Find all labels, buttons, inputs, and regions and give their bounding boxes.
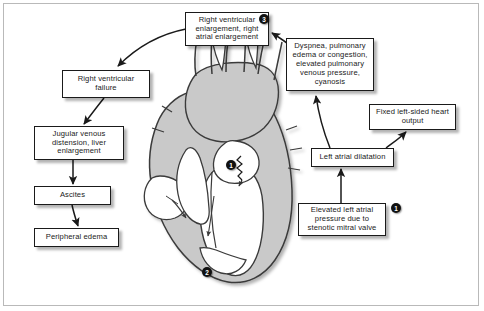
- arrow-rv-enlargement-to-rv-failure: [118, 29, 186, 66]
- jugular-venous-distension-box[interactable]: Jugular venous distension, liver enlarge…: [34, 126, 124, 160]
- dyspnea-pulmonary-edema-box[interactable]: Dyspnea, pulmonary edema or congestion, …: [286, 38, 374, 91]
- left-atrial-dilatation-text: Left atrial dilatation: [320, 153, 386, 162]
- dyspnea-pulmonary-edema-text: Dyspnea, pulmonary edema or congestion, …: [290, 42, 370, 87]
- fixed-left-sided-heart-output-box[interactable]: Fixed left-sided heart output: [369, 104, 456, 130]
- fixed-left-sided-heart-output-text: Fixed left-sided heart output: [373, 108, 452, 126]
- step-badge-1-elevated-pressure: 1: [391, 203, 401, 213]
- step-badge-1-mitral-valve: 1: [226, 160, 236, 170]
- arrow-rv-failure-to-jvd: [84, 98, 104, 124]
- step-badge-1-elevated-pressure-label: 1: [394, 205, 398, 212]
- arrow-la-dilatation-to-dyspnea: [316, 96, 330, 148]
- elevated-left-atrial-pressure-text: Elevated left atrial pressure due to ste…: [302, 206, 382, 233]
- heart-body: [144, 36, 302, 283]
- peripheral-edema-box[interactable]: Peripheral edema: [34, 228, 119, 247]
- peripheral-edema-text: Peripheral edema: [46, 233, 108, 242]
- step-badge-2-left-ventricle: 2: [202, 267, 212, 277]
- arrow-la-dilatation-to-fixed-output: [386, 132, 406, 148]
- ascites-text: Ascites: [60, 191, 85, 200]
- step-badge-3-label: 3: [262, 16, 266, 23]
- left-atrial-dilatation-box[interactable]: Left atrial dilatation: [311, 148, 394, 167]
- ascites-box[interactable]: Ascites: [34, 186, 111, 205]
- step-badge-1-mitral-valve-label: 1: [229, 162, 233, 169]
- arrow-ascites-to-peripheral-edema: [72, 205, 78, 226]
- right-ventricular-enlargement-box[interactable]: Right ventricular enlargement, right atr…: [185, 12, 269, 46]
- step-badge-2-left-ventricle-label: 2: [205, 269, 209, 276]
- right-ventricular-failure-text: Right ventricular failure: [66, 75, 146, 93]
- elevated-left-atrial-pressure-box[interactable]: Elevated left atrial pressure due to ste…: [298, 203, 386, 236]
- diagram-canvas: Right ventricular enlargement, right atr…: [0, 0, 484, 311]
- right-ventricular-enlargement-text: Right ventricular enlargement, right atr…: [189, 16, 265, 43]
- jugular-venous-distension-text: Jugular venous distension, liver enlarge…: [38, 130, 120, 157]
- step-badge-3: 3: [259, 14, 269, 24]
- right-ventricular-failure-box[interactable]: Right ventricular failure: [62, 70, 150, 98]
